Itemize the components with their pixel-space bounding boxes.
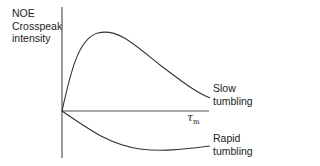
rapid-label-line-1: Rapid xyxy=(213,132,253,145)
slow-label-line-2: tumbling xyxy=(213,95,253,108)
slow-tumbling-label: Slow tumbling xyxy=(213,82,253,107)
x-axis-label-tau-m: τm xyxy=(187,111,200,126)
slow-label-line-1: Slow xyxy=(213,82,253,95)
rapid-tumbling-label: Rapid tumbling xyxy=(213,132,253,157)
rapid-label-line-2: tumbling xyxy=(213,145,253,158)
tau-subscript: m xyxy=(193,118,200,126)
slow-tumbling-curve xyxy=(62,32,210,111)
